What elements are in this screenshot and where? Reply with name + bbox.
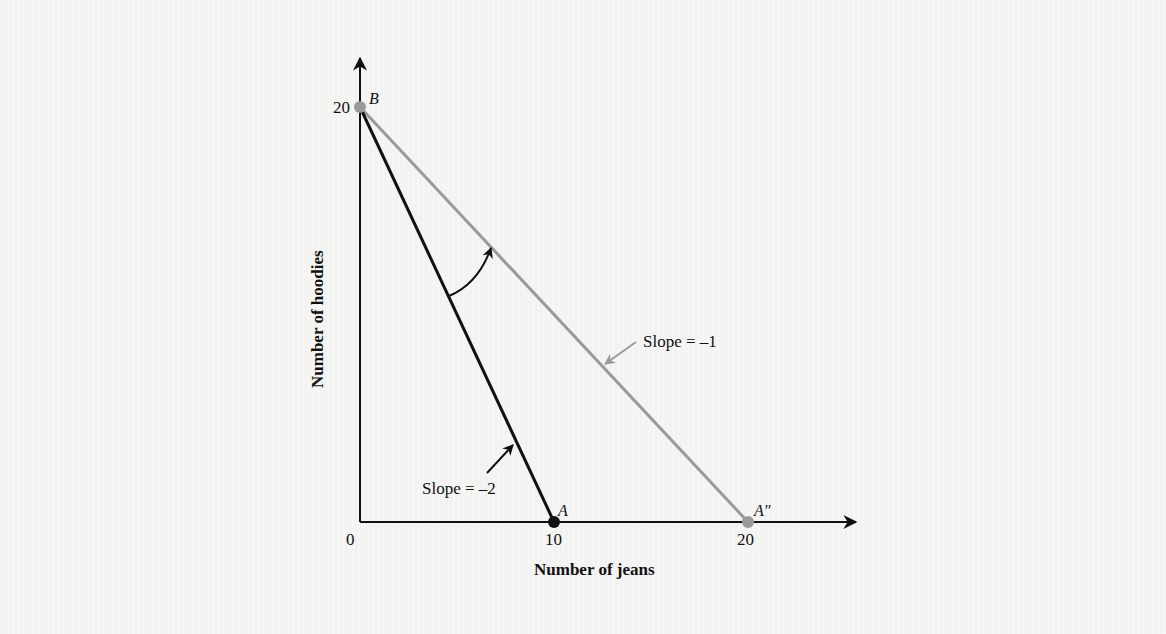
point-a-double-prime-label: A″ xyxy=(753,502,771,519)
y-axis-title: Number of hoodies xyxy=(308,250,327,388)
point-a-label: A xyxy=(557,502,568,519)
point-b-label: B xyxy=(369,90,379,107)
steep-budget-line xyxy=(360,107,554,522)
point-a-double-prime-marker xyxy=(742,516,754,528)
y-tick-20: 20 xyxy=(333,98,350,117)
budget-line-chart: B A A″ 20 0 10 20 Slope = –2 Slope = –1 … xyxy=(0,0,1166,634)
point-b-marker xyxy=(354,101,366,113)
x-tick-20: 20 xyxy=(737,530,754,549)
slope-neg2-arrow xyxy=(487,445,513,473)
origin-label: 0 xyxy=(346,530,355,549)
slope-neg1-label: Slope = –1 xyxy=(643,332,717,351)
slope-neg2-label: Slope = –2 xyxy=(422,479,496,498)
x-tick-10: 10 xyxy=(545,530,562,549)
x-axis-title: Number of jeans xyxy=(534,560,655,579)
rotation-arc-arrow xyxy=(449,248,491,296)
chart-page: B A A″ 20 0 10 20 Slope = –2 Slope = –1 … xyxy=(0,0,1166,634)
slope-neg1-arrow xyxy=(605,342,636,364)
shallow-budget-line xyxy=(360,107,748,522)
